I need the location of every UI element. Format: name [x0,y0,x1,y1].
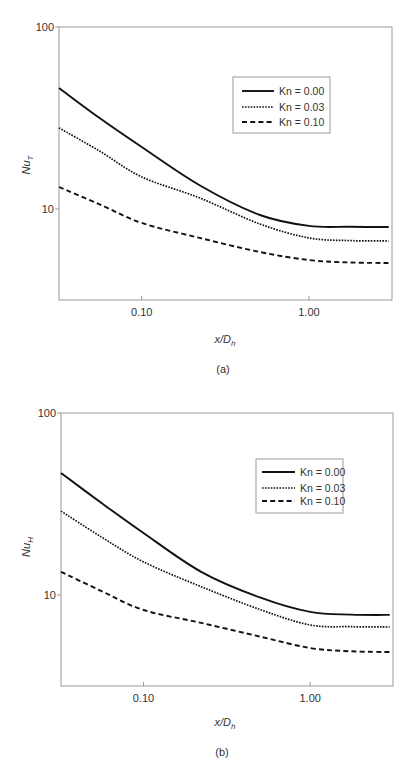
legend: Kn = 0.00 Kn = 0.03 Kn = 0.10 [256,459,345,513]
series-curve-dotted [61,511,390,627]
legend-label: Kn = 0.03 [279,101,324,113]
x-tick-label: 1.00 [298,306,319,318]
x-tick-label: 0.10 [131,306,152,318]
plot-frame [59,27,392,300]
legend-label: Kn = 0.00 [300,466,345,478]
chart-panel-b: Kn = 0.00 Kn = 0.03 Kn = 0.10 10 100 0.1… [20,407,393,758]
y-tick-label: 100 [36,21,54,33]
x-axis-label: x/Dh [214,716,237,731]
legend: Kn = 0.00 Kn = 0.03 Kn = 0.10 [233,77,330,133]
y-tick-label: 10 [44,589,56,601]
legend-label: Kn = 0.10 [300,495,345,507]
y-axis-label: NuT [20,154,35,174]
legend-label: Kn = 0.03 [300,482,345,494]
data-curves [59,88,389,263]
legend-label: Kn = 0.00 [279,85,324,97]
plot-frame [61,413,393,686]
chart-panel-a: Kn = 0.00 Kn = 0.03 Kn = 0.10 10 100 0.1… [20,21,392,375]
series-curve-solid [59,88,389,227]
y-axis-label: NuH [20,537,35,557]
panel-label: (a) [216,363,229,375]
axis-ticks [57,413,310,686]
y-tick-label: 100 [38,407,56,419]
x-axis-label: x/Dh [214,333,237,348]
y-tick-label: 10 [42,203,54,215]
panel-label: (b) [215,746,228,758]
figure: Kn = 0.00 Kn = 0.03 Kn = 0.10 10 100 0.1… [0,0,413,778]
x-tick-label: 0.10 [133,692,154,704]
legend-label: Kn = 0.10 [279,116,324,128]
series-curve-dotted [59,128,389,241]
axis-ticks [55,27,309,300]
x-tick-label: 1.00 [299,692,320,704]
